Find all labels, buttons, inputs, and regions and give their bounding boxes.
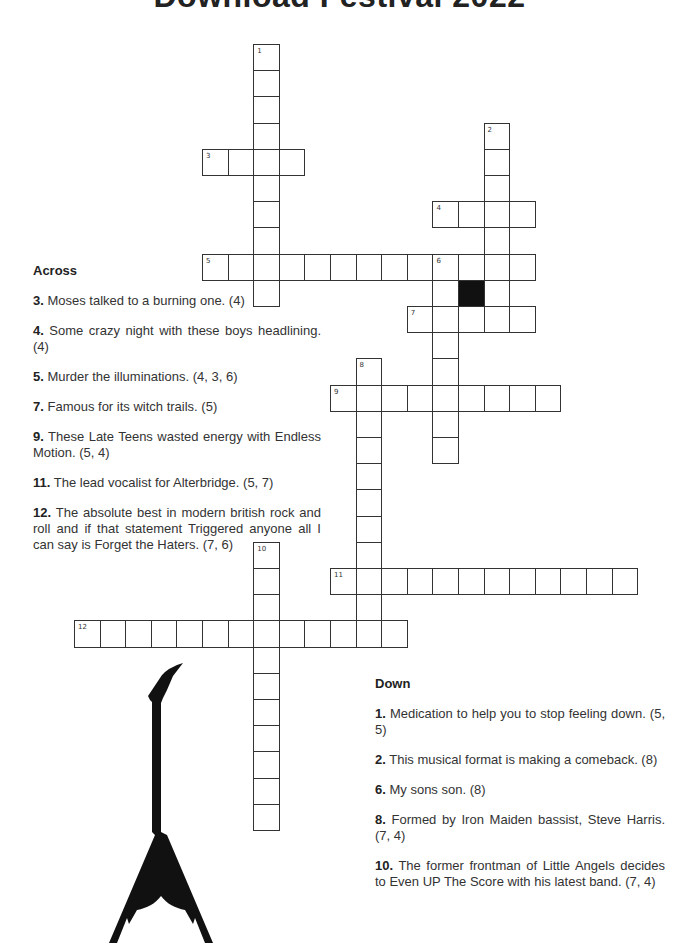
- grid-cell[interactable]: [381, 568, 408, 595]
- flying-v-guitar-icon: [105, 660, 217, 943]
- grid-cell[interactable]: [253, 227, 280, 254]
- grid-cell[interactable]: [458, 385, 485, 412]
- grid-cell[interactable]: [202, 620, 229, 647]
- grid-cell[interactable]: [535, 568, 562, 595]
- down-clue: 1. Medication to help you to stop feelin…: [375, 706, 665, 738]
- grid-cell[interactable]: [509, 385, 536, 412]
- grid-cell[interactable]: [228, 620, 255, 647]
- clue-text: The lead vocalist for Alterbridge. (5, 7…: [50, 475, 273, 490]
- grid-cell[interactable]: [432, 306, 459, 333]
- grid-cell[interactable]: [253, 201, 280, 228]
- grid-cell[interactable]: [253, 149, 280, 176]
- grid-cell[interactable]: [356, 594, 383, 621]
- grid-cell[interactable]: [253, 778, 280, 805]
- grid-cell[interactable]: [356, 411, 383, 438]
- grid-cell[interactable]: 3: [202, 149, 229, 176]
- grid-cell[interactable]: [253, 620, 280, 647]
- grid-cell[interactable]: [356, 437, 383, 464]
- grid-cell[interactable]: [253, 594, 280, 621]
- grid-cell[interactable]: [381, 385, 408, 412]
- grid-cell[interactable]: [253, 96, 280, 123]
- grid-cell[interactable]: [381, 254, 408, 281]
- grid-cell[interactable]: [176, 620, 203, 647]
- grid-cell[interactable]: [509, 254, 536, 281]
- grid-cell[interactable]: 12: [74, 620, 101, 647]
- grid-cell[interactable]: [356, 254, 383, 281]
- grid-cell[interactable]: [125, 620, 152, 647]
- grid-cell[interactable]: [484, 385, 511, 412]
- grid-cell[interactable]: [279, 620, 306, 647]
- grid-cell[interactable]: [253, 568, 280, 595]
- grid-cell[interactable]: [304, 620, 331, 647]
- grid-cell[interactable]: [484, 568, 511, 595]
- grid-cell[interactable]: [432, 280, 459, 307]
- grid-cell[interactable]: [279, 149, 306, 176]
- grid-cell[interactable]: [356, 385, 383, 412]
- grid-cell[interactable]: [535, 385, 562, 412]
- grid-cell[interactable]: [432, 411, 459, 438]
- grid-cell[interactable]: [253, 175, 280, 202]
- grid-cell[interactable]: [381, 620, 408, 647]
- grid-cell[interactable]: [458, 306, 485, 333]
- grid-cell[interactable]: [407, 254, 434, 281]
- grid-cell[interactable]: [458, 201, 485, 228]
- grid-cell[interactable]: [432, 358, 459, 385]
- grid-cell[interactable]: [458, 568, 485, 595]
- grid-cell[interactable]: [356, 568, 383, 595]
- clue-number: 6.: [375, 782, 386, 797]
- grid-cell[interactable]: [253, 70, 280, 97]
- grid-cell[interactable]: [612, 568, 639, 595]
- grid-cell[interactable]: [484, 201, 511, 228]
- grid-cell[interactable]: [356, 489, 383, 516]
- grid-cell[interactable]: [356, 463, 383, 490]
- grid-cell[interactable]: 6: [432, 254, 459, 281]
- grid-cell[interactable]: 8: [356, 358, 383, 385]
- grid-cell[interactable]: 4: [432, 201, 459, 228]
- grid-cell[interactable]: [100, 620, 127, 647]
- down-clue: 8. Formed by Iron Maiden bassist, Steve …: [375, 812, 665, 844]
- grid-cell[interactable]: [432, 437, 459, 464]
- grid-cell[interactable]: [356, 620, 383, 647]
- grid-cell[interactable]: [509, 306, 536, 333]
- grid-cell[interactable]: [484, 175, 511, 202]
- grid-cell[interactable]: [253, 751, 280, 778]
- grid-cell[interactable]: [253, 725, 280, 752]
- grid-cell[interactable]: [253, 123, 280, 150]
- grid-cell[interactable]: [356, 516, 383, 543]
- across-heading: Across: [33, 263, 321, 279]
- grid-cell[interactable]: [560, 568, 587, 595]
- grid-cell[interactable]: [458, 254, 485, 281]
- grid-cell[interactable]: [356, 542, 383, 569]
- grid-cell[interactable]: [484, 227, 511, 254]
- grid-cell[interactable]: [151, 620, 178, 647]
- grid-cell[interactable]: [509, 201, 536, 228]
- down-clue: 6. My sons son. (8): [375, 782, 665, 798]
- grid-cell[interactable]: [484, 254, 511, 281]
- clue-number: 3.: [33, 293, 44, 308]
- grid-cell[interactable]: [432, 568, 459, 595]
- grid-cell[interactable]: [586, 568, 613, 595]
- grid-cell[interactable]: [509, 568, 536, 595]
- grid-cell[interactable]: 7: [407, 306, 434, 333]
- grid-cell[interactable]: [330, 254, 357, 281]
- grid-cell[interactable]: [407, 568, 434, 595]
- clue-text: My sons son. (8): [386, 782, 486, 797]
- grid-cell[interactable]: [484, 280, 511, 307]
- grid-cell[interactable]: [484, 306, 511, 333]
- grid-cell[interactable]: [432, 332, 459, 359]
- grid-cell[interactable]: [228, 149, 255, 176]
- clue-number: 11: [334, 571, 343, 579]
- grid-cell[interactable]: [253, 673, 280, 700]
- grid-cell[interactable]: [432, 385, 459, 412]
- down-clues: Down 1. Medication to help you to stop f…: [375, 676, 665, 890]
- grid-cell[interactable]: [484, 149, 511, 176]
- grid-cell[interactable]: [407, 385, 434, 412]
- grid-cell[interactable]: 1: [253, 44, 280, 71]
- grid-cell[interactable]: [253, 699, 280, 726]
- grid-cell[interactable]: [330, 620, 357, 647]
- grid-cell[interactable]: 2: [484, 123, 511, 150]
- grid-cell[interactable]: [253, 647, 280, 674]
- grid-cell[interactable]: 11: [330, 568, 357, 595]
- grid-cell[interactable]: [253, 804, 280, 831]
- grid-cell[interactable]: 9: [330, 385, 357, 412]
